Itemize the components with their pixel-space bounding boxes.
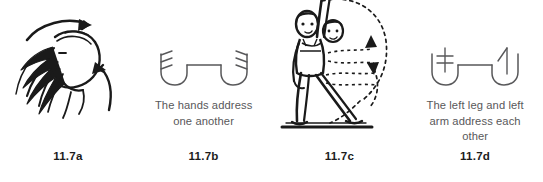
figure-label-a: 11.7a <box>0 149 136 162</box>
sketch-ink-strokes <box>16 19 111 118</box>
figure-board: 11.7a <box>0 0 543 182</box>
dancer-arm-overhead-sketch: 11.7c <box>272 0 408 182</box>
figure-label-d: 11.7d <box>407 149 543 162</box>
figure-label-b: 11.7b <box>136 149 272 162</box>
leg-and-arm-signs-addressing <box>407 0 543 96</box>
two-hand-signs-addressing <box>136 0 272 96</box>
hand-sign-right <box>221 51 247 85</box>
hand-sign-left <box>161 51 187 85</box>
figure-panel-a: 11.7a <box>0 0 136 182</box>
leg-sign-left <box>432 48 458 85</box>
panel-caption-b: The hands address one another <box>148 98 260 129</box>
panel-caption-d: The left leg and left arm address each o… <box>419 98 531 145</box>
head-tilted-back-sketch <box>0 0 136 128</box>
figure-panel-b: The hands address one another 11.7b <box>136 0 272 182</box>
figure-panel-d: The left leg and left arm address each o… <box>407 0 543 182</box>
arm-sign-right <box>492 48 518 85</box>
figure-label-c: 11.7c <box>272 149 408 162</box>
